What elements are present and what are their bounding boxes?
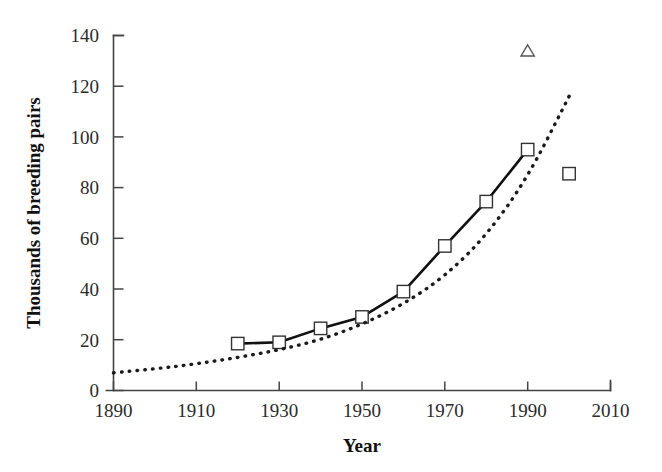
data-point-square-1940 bbox=[314, 322, 326, 334]
data-point-square-2000 bbox=[563, 168, 575, 180]
x-tick-label-1910: 1910 bbox=[177, 400, 215, 421]
data-point-square-1930 bbox=[273, 336, 285, 348]
x-tick-label-1990: 1990 bbox=[509, 400, 547, 421]
x-tick-label-1950: 1950 bbox=[343, 400, 381, 421]
data-series-layer bbox=[114, 45, 576, 373]
chart-figure: 140 120 100 80 60 40 20 0 1890 1910 1930… bbox=[0, 0, 662, 472]
series-observed-counts bbox=[232, 143, 534, 349]
x-tick-marks bbox=[114, 382, 611, 391]
x-tick-label-1970: 1970 bbox=[426, 400, 464, 421]
line-chart-canvas: 140 120 100 80 60 40 20 0 1890 1910 1930… bbox=[0, 0, 662, 472]
y-tick-label-140: 140 bbox=[71, 25, 100, 46]
data-point-square-1920 bbox=[232, 337, 244, 349]
y-tick-label-60: 60 bbox=[80, 228, 99, 249]
y-axis-title: Thousands of breeding pairs bbox=[23, 97, 44, 328]
axis-group bbox=[114, 36, 611, 391]
dotted-fitted-curve bbox=[114, 96, 570, 372]
x-axis-title: Year bbox=[343, 435, 382, 456]
y-tick-label-40: 40 bbox=[80, 279, 99, 300]
data-point-square-1980 bbox=[480, 195, 492, 207]
x-tick-label-2010: 2010 bbox=[592, 400, 630, 421]
y-tick-label-0: 0 bbox=[90, 380, 100, 401]
series-final-square-point bbox=[563, 168, 575, 180]
y-tick-marks bbox=[106, 36, 124, 391]
series-outlier-triangle-point bbox=[521, 45, 534, 56]
y-tick-label-100: 100 bbox=[71, 127, 100, 148]
data-point-square-1960 bbox=[397, 285, 409, 297]
y-tick-labels: 140 120 100 80 60 40 20 0 bbox=[71, 25, 100, 401]
y-tick-label-80: 80 bbox=[80, 177, 99, 198]
y-tick-label-120: 120 bbox=[71, 76, 100, 97]
data-point-triangle-1990 bbox=[521, 45, 534, 56]
x-tick-labels: 1890 1910 1930 1950 1970 1990 2010 bbox=[95, 400, 630, 421]
x-tick-label-1890: 1890 bbox=[95, 400, 133, 421]
x-tick-label-1930: 1930 bbox=[260, 400, 298, 421]
solid-trend-line bbox=[238, 150, 528, 344]
data-point-square-1990 bbox=[521, 143, 533, 155]
data-point-square-1970 bbox=[439, 240, 451, 252]
series-fitted-exponential-curve bbox=[114, 96, 570, 372]
y-tick-label-20: 20 bbox=[80, 330, 99, 351]
